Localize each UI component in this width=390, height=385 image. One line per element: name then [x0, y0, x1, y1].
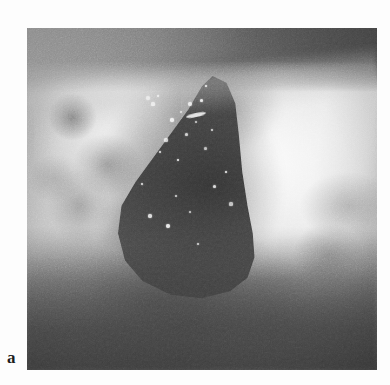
photo-specular-streak	[186, 111, 206, 119]
specular-speckle	[151, 102, 154, 105]
photo-halftone-grain	[27, 28, 377, 370]
photo-lower-light-streak	[27, 28, 377, 370]
specular-speckle	[180, 111, 183, 114]
specular-speckle	[229, 202, 232, 205]
specular-speckle	[204, 147, 207, 150]
panel-label: a	[7, 348, 25, 368]
specular-speckle	[175, 195, 177, 197]
specular-speckle	[164, 138, 167, 141]
photo-base-tone-layer	[27, 28, 377, 370]
specular-speckle	[170, 118, 174, 122]
specular-speckle	[146, 96, 150, 100]
photo-fine-grain	[27, 28, 377, 370]
specular-speckle	[159, 151, 162, 154]
specular-speckle	[148, 214, 151, 217]
photo-lower-tissue-shadow	[27, 28, 377, 370]
photo-left-highlight-layer	[34, 69, 195, 226]
specular-speckle	[205, 85, 208, 88]
specular-speckle	[188, 102, 192, 106]
specular-speckle	[189, 211, 192, 214]
photo-right-bright-tissue	[181, 62, 377, 288]
specular-speckle	[225, 171, 228, 174]
specular-speckle	[195, 121, 197, 123]
photo-vignette	[27, 28, 377, 370]
photo-specular-speckles	[27, 28, 377, 370]
specular-speckle	[213, 185, 216, 188]
specular-speckle	[177, 159, 180, 162]
specular-speckle	[185, 133, 188, 136]
photo-skin-blotches-layer	[27, 28, 377, 370]
specular-speckle	[141, 183, 143, 185]
figure-panel: a	[0, 0, 390, 385]
photo-wound-cavity	[27, 28, 377, 370]
photo-wound-penumbra	[27, 28, 377, 370]
specular-speckle	[211, 129, 213, 131]
specular-speckle	[166, 224, 170, 228]
clinical-photograph	[27, 28, 377, 370]
photo-upper-dark-band	[27, 28, 377, 92]
specular-speckle	[197, 243, 200, 246]
specular-speckle	[200, 99, 203, 102]
specular-speckle	[157, 95, 160, 98]
